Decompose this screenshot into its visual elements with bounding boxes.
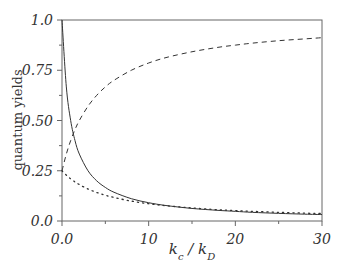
data-series: [62, 20, 322, 215]
x-tick-label: 0.0: [51, 231, 73, 247]
series-dashed-line: [62, 38, 322, 171]
series-dotted-line: [62, 171, 322, 214]
y-tick-label: 0.75: [22, 62, 53, 78]
plot-border: [62, 20, 322, 221]
tick-labels: 0.01020300.00.250.500.751.0: [22, 12, 331, 247]
series-solid-line: [62, 20, 322, 215]
axis-ticks: [57, 20, 322, 226]
chart-canvas: 0.01020300.00.250.500.751.0 quantum yiel…: [0, 0, 342, 272]
y-tick-label: 0.50: [22, 113, 53, 129]
y-axis-title: quantum yields: [10, 69, 25, 170]
quantum-yields-chart: 0.01020300.00.250.500.751.0 quantum yiel…: [0, 0, 342, 272]
y-tick-label: 1.0: [31, 12, 53, 28]
x-tick-label: 20: [225, 231, 244, 247]
x-tick-label: 10: [140, 231, 158, 247]
y-tick-label: 0.0: [31, 213, 53, 229]
y-tick-label: 0.25: [22, 163, 53, 179]
x-tick-label: 30: [313, 231, 331, 247]
x-axis-title: kc / kD: [169, 240, 215, 262]
plot-frame: [62, 20, 322, 221]
